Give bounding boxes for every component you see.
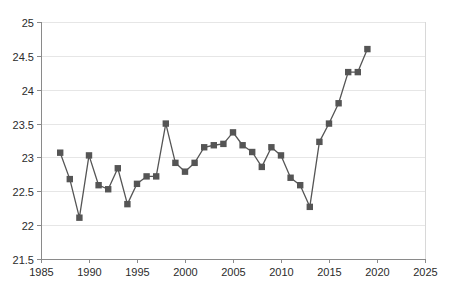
x-tick-label: 2020 bbox=[365, 266, 389, 278]
data-point-marker bbox=[220, 141, 226, 147]
x-axis-tick-labels: 198519901995200020052010201520202025 bbox=[29, 266, 437, 278]
data-point-marker bbox=[105, 186, 111, 192]
data-point-marker bbox=[230, 129, 236, 135]
x-tick-label: 2015 bbox=[317, 266, 341, 278]
data-point-marker bbox=[316, 139, 322, 145]
plot-frame bbox=[41, 22, 426, 260]
y-tick-label: 24.5 bbox=[13, 51, 34, 63]
data-point-marker bbox=[355, 69, 361, 75]
data-point-marker bbox=[57, 149, 63, 155]
data-point-marker bbox=[345, 69, 351, 75]
data-point-marker bbox=[124, 201, 130, 207]
data-point-marker bbox=[153, 173, 159, 179]
y-tick-label: 25 bbox=[22, 17, 34, 29]
y-tick-label: 24 bbox=[22, 85, 34, 97]
data-point-marker bbox=[76, 214, 82, 220]
data-point-marker bbox=[182, 168, 188, 174]
data-point-marker bbox=[134, 181, 140, 187]
x-tick-label: 2005 bbox=[221, 266, 245, 278]
data-point-marker bbox=[278, 152, 284, 158]
y-tick-label: 21.5 bbox=[13, 254, 34, 266]
y-tick-label: 22.5 bbox=[13, 186, 34, 198]
y-axis-ticks bbox=[37, 23, 41, 260]
x-tick-label: 2000 bbox=[173, 266, 197, 278]
data-point-marker bbox=[143, 173, 149, 179]
gridlines-group bbox=[41, 23, 425, 226]
x-tick-label: 1990 bbox=[77, 266, 101, 278]
chart-container: 21.52222.52323.52424.525 198519901995200… bbox=[0, 0, 454, 291]
data-point-marker bbox=[297, 182, 303, 188]
data-point-marker bbox=[95, 182, 101, 188]
data-point-marker bbox=[335, 100, 341, 106]
x-tick-label: 2010 bbox=[269, 266, 293, 278]
data-point-marker bbox=[326, 120, 332, 126]
data-point-marker bbox=[249, 149, 255, 155]
data-point-marker bbox=[211, 142, 217, 148]
data-point-marker bbox=[287, 175, 293, 181]
line-chart: 21.52222.52323.52424.525 198519901995200… bbox=[0, 0, 454, 291]
y-tick-label: 22 bbox=[22, 220, 34, 232]
data-point-marker bbox=[239, 142, 245, 148]
data-point-marker bbox=[86, 152, 92, 158]
data-point-marker bbox=[307, 204, 313, 210]
y-tick-label: 23 bbox=[22, 152, 34, 164]
x-tick-label: 1985 bbox=[29, 266, 53, 278]
data-point-marker bbox=[364, 46, 370, 52]
data-point-marker bbox=[259, 164, 265, 170]
data-point-marker bbox=[172, 160, 178, 166]
x-tick-label: 2025 bbox=[413, 266, 437, 278]
data-point-marker bbox=[67, 176, 73, 182]
y-axis-tick-labels: 21.52222.52323.52424.525 bbox=[13, 17, 34, 266]
data-point-marker bbox=[163, 120, 169, 126]
data-point-marker bbox=[191, 160, 197, 166]
data-point-marker bbox=[268, 144, 274, 150]
data-point-marker bbox=[115, 165, 121, 171]
y-tick-label: 23.5 bbox=[13, 119, 34, 131]
x-tick-label: 1995 bbox=[125, 266, 149, 278]
data-point-marker bbox=[201, 144, 207, 150]
